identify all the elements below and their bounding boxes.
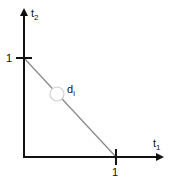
point-di [50,87,64,101]
x-axis-label: t1 [153,137,161,152]
point-label: di [67,83,75,98]
y-axis-label: t2 [31,7,39,22]
x-tick-label: 1 [112,166,118,178]
y-tick-label: 1 [6,52,12,64]
diagram-canvas: 1 1 t2 t1 di [0,0,174,178]
constraint-line [24,58,116,157]
